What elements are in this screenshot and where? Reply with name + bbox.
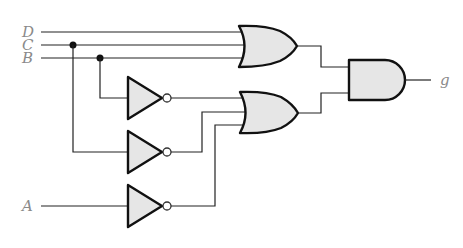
or-gate-2 (240, 92, 298, 133)
input-label-a: A (20, 197, 33, 215)
wire-b-to-not1 (100, 58, 128, 98)
wire-or2-to-and (298, 93, 349, 113)
wire-not3-to-or2 (171, 125, 244, 206)
not-gate-1 (128, 77, 171, 119)
wire-or1-to-and (297, 46, 349, 67)
output-label-g: g (440, 71, 450, 89)
and-gate (349, 60, 405, 100)
logic-circuit-diagram: D C B A g (0, 0, 463, 248)
not-gate-2 (128, 131, 171, 173)
or-gate-1 (239, 26, 297, 67)
input-label-b: B (21, 49, 33, 67)
wire-not2-to-or2 (171, 112, 246, 152)
not-gate-3 (128, 185, 171, 227)
